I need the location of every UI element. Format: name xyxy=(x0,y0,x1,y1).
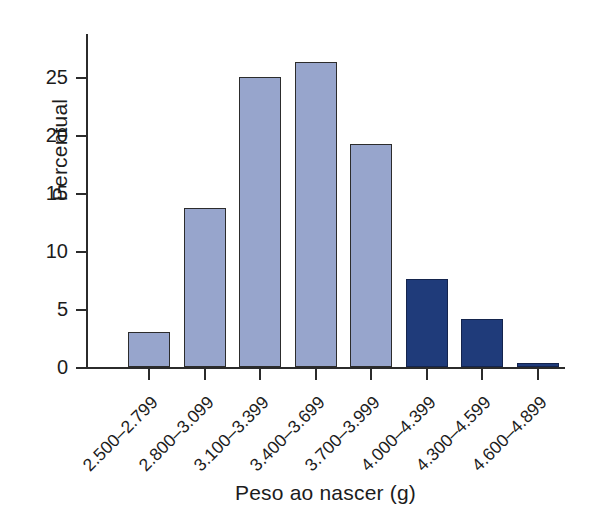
x-tick-mark xyxy=(148,369,150,380)
x-tick-mark xyxy=(259,369,261,380)
x-tick-mark xyxy=(370,369,372,380)
y-tick-label: 10 xyxy=(8,240,68,263)
y-tick-mark xyxy=(76,193,86,195)
y-tick-label: 0 xyxy=(8,356,68,379)
y-tick-mark xyxy=(76,135,86,137)
x-tick-mark xyxy=(315,369,317,380)
y-axis-line xyxy=(86,34,88,369)
x-tick-mark xyxy=(204,369,206,380)
y-tick-label: 20 xyxy=(8,124,68,147)
y-tick-mark xyxy=(76,77,86,79)
bar xyxy=(517,363,559,367)
bar xyxy=(461,319,503,367)
bar xyxy=(128,332,170,367)
bar xyxy=(295,62,337,367)
bar xyxy=(184,208,226,367)
bar xyxy=(406,279,448,367)
x-tick-mark xyxy=(537,369,539,380)
y-tick-mark xyxy=(76,367,86,369)
bar xyxy=(350,144,392,367)
x-tick-mark xyxy=(481,369,483,380)
x-tick-mark xyxy=(426,369,428,380)
x-axis-line xyxy=(86,367,565,369)
y-tick-label: 15 xyxy=(8,182,68,205)
y-tick-label: 25 xyxy=(8,66,68,89)
bar xyxy=(239,77,281,367)
y-tick-label: 5 xyxy=(8,298,68,321)
x-axis-title: Peso ao nascer (g) xyxy=(86,481,565,505)
y-tick-mark xyxy=(76,251,86,253)
bar-chart-figure: Percentual 0 5 10 15 20 25 2.500–2.7992.… xyxy=(0,0,598,520)
y-tick-mark xyxy=(76,309,86,311)
